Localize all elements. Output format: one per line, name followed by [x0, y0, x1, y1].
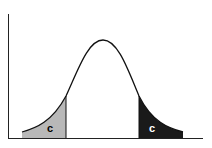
right-tail-label: c [149, 122, 155, 134]
bell-curve [22, 40, 183, 132]
normal-curve-diagram [0, 0, 212, 148]
right-tail-region [139, 96, 183, 138]
left-tail-region [22, 96, 66, 138]
left-tail-label: c [47, 122, 53, 134]
